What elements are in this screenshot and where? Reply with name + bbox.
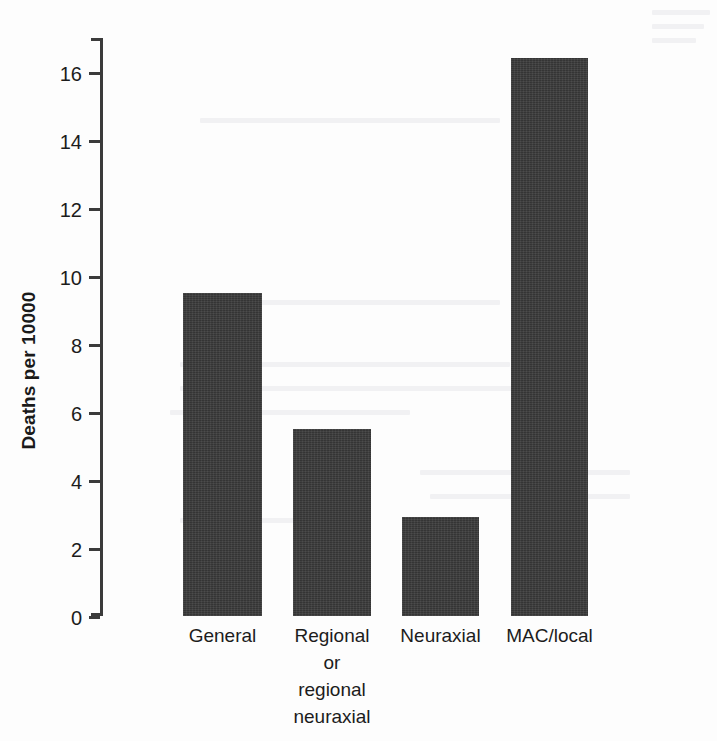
- x-category-label: MAC/local: [470, 622, 630, 649]
- y-tick-mark: 0: [89, 616, 100, 619]
- y-tick-mark: 12: [89, 208, 100, 211]
- y-tick-mark: 4: [89, 480, 100, 483]
- y-tick-label: 12: [60, 200, 82, 220]
- bar: [511, 58, 588, 616]
- y-axis-title: Deaths per 10000: [0, 0, 46, 741]
- y-tick-mark: 8: [89, 344, 100, 347]
- y-tick-label: 2: [71, 540, 82, 560]
- y-tick-mark: 16: [89, 72, 100, 75]
- bar-chart-figure: Deaths per 10000 0246810121416 GeneralRe…: [0, 0, 717, 741]
- y-tick-label: 4: [71, 472, 82, 492]
- bar: [183, 293, 262, 616]
- bar: [402, 517, 479, 616]
- x-category-label-line: regional: [252, 676, 412, 703]
- y-tick-label: 14: [60, 132, 82, 152]
- x-category-label-line: neuraxial: [252, 703, 412, 730]
- y-axis-line: [100, 38, 103, 616]
- plot-area: 0246810121416 GeneralRegionalorregionaln…: [100, 38, 640, 616]
- y-tick-label: 16: [60, 64, 82, 84]
- x-category-label-line: MAC/local: [470, 622, 630, 649]
- y-tick-mark: 10: [89, 276, 100, 279]
- x-category-label-line: or: [252, 649, 412, 676]
- bar: [293, 429, 371, 616]
- y-axis-cap-top: [91, 38, 103, 41]
- y-tick-label: 8: [71, 336, 82, 356]
- y-tick-label: 6: [71, 404, 82, 424]
- scan-artifact: [652, 10, 710, 15]
- y-tick-mark: 14: [89, 140, 100, 143]
- scan-artifact: [652, 24, 704, 29]
- y-axis-title-text: Deaths per 10000: [18, 292, 40, 450]
- y-tick-label: 10: [60, 268, 82, 288]
- scan-artifact: [652, 38, 696, 43]
- y-tick-mark: 2: [89, 548, 100, 551]
- y-tick-mark: 6: [89, 412, 100, 415]
- y-tick-label: 0: [71, 608, 82, 628]
